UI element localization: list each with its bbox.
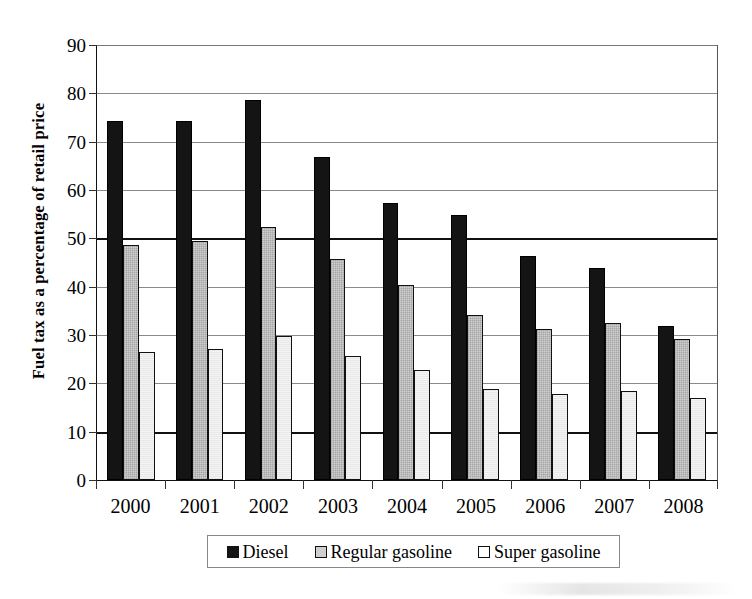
x-tickmark-2008 — [649, 480, 718, 490]
bar-slot — [107, 45, 155, 480]
legend-label: Super gasoline — [494, 543, 600, 561]
bar-group-2004 — [373, 45, 442, 480]
x-tick-label-2000: 2000 — [96, 492, 165, 520]
x-tickmark-2006 — [511, 480, 580, 490]
bar-regular-gasoline-2007 — [605, 323, 621, 480]
legend-swatch-icon-regular — [315, 546, 327, 558]
bar-diesel-2005 — [451, 215, 467, 480]
x-tickmark-2004 — [372, 480, 441, 490]
bar-slot — [314, 45, 362, 480]
bar-diesel-2002 — [245, 100, 261, 480]
x-tick-label-2002: 2002 — [234, 492, 303, 520]
bar-group-2001 — [166, 45, 235, 480]
bar-slot — [245, 45, 293, 480]
y-tick-label-70: 70 — [40, 132, 97, 151]
bar-super-gasoline-2006 — [552, 394, 568, 480]
bar-regular-gasoline-2002 — [261, 227, 277, 480]
y-tick-label-90: 90 — [40, 36, 97, 55]
bar-diesel-2006 — [520, 256, 536, 480]
x-tick-label-2004: 2004 — [372, 492, 441, 520]
y-tick-label-20: 20 — [40, 374, 97, 393]
bar-diesel-2008 — [658, 326, 674, 480]
bar-super-gasoline-2005 — [483, 389, 499, 480]
x-tickmark-2001 — [165, 480, 234, 490]
legend-item-regular-gasoline[interactable]: Regular gasoline — [315, 543, 452, 561]
x-tickmark-2007 — [580, 480, 649, 490]
y-tick-label-50: 50 — [40, 229, 97, 248]
x-tickmark-2002 — [234, 480, 303, 490]
bar-group-2000 — [97, 45, 166, 480]
bar-regular-gasoline-2008 — [674, 339, 690, 480]
bar-regular-gasoline-2003 — [330, 259, 346, 480]
bar-group-2005 — [441, 45, 510, 480]
bar-slot — [589, 45, 637, 480]
legend-label: Regular gasoline — [331, 543, 452, 561]
y-tick-label-60: 60 — [40, 180, 97, 199]
x-tick-label-2007: 2007 — [580, 492, 649, 520]
x-tick-label-2003: 2003 — [303, 492, 372, 520]
bar-regular-gasoline-2006 — [536, 329, 552, 480]
bar-regular-gasoline-2000 — [123, 245, 139, 480]
bar-diesel-2000 — [107, 121, 123, 480]
y-tick-label-40: 40 — [40, 277, 97, 296]
bar-slot — [383, 45, 431, 480]
bar-super-gasoline-2008 — [690, 398, 706, 480]
x-tickmark-2000 — [96, 480, 165, 490]
legend-item-diesel[interactable]: Diesel — [227, 543, 289, 561]
bar-super-gasoline-2002 — [276, 336, 292, 480]
x-tick-label-2001: 2001 — [165, 492, 234, 520]
legend-swatch-icon-super — [478, 546, 490, 558]
x-tickmark-2005 — [442, 480, 511, 490]
y-tick-label-30: 30 — [40, 325, 97, 344]
bar-slot — [520, 45, 568, 480]
scan-artifact — [498, 583, 738, 595]
bar-diesel-2003 — [314, 157, 330, 480]
bar-regular-gasoline-2001 — [192, 241, 208, 480]
legend-item-super-gasoline[interactable]: Super gasoline — [478, 543, 600, 561]
bar-diesel-2007 — [589, 268, 605, 480]
bar-super-gasoline-2003 — [345, 356, 361, 480]
bar-super-gasoline-2004 — [414, 370, 430, 480]
plot-area: 0102030405060708090 — [96, 45, 718, 480]
bar-group-2003 — [304, 45, 373, 480]
bar-group-2002 — [235, 45, 304, 480]
x-axis-labels: 200020012002200320042005200620072008 — [96, 492, 718, 520]
bar-group-2007 — [579, 45, 648, 480]
legend-swatch-icon-diesel — [227, 546, 239, 558]
x-tick-label-2006: 2006 — [511, 492, 580, 520]
bar-group-2008 — [648, 45, 717, 480]
legend-label: Diesel — [243, 543, 289, 561]
bar-regular-gasoline-2005 — [467, 315, 483, 480]
bar-slot — [451, 45, 499, 480]
chart-legend: DieselRegular gasolineSuper gasoline — [207, 535, 620, 568]
bar-regular-gasoline-2004 — [398, 285, 414, 480]
y-tick-label-80: 80 — [40, 84, 97, 103]
bar-chart-figure: Fuel tax as a percentage of retail price… — [0, 0, 752, 599]
bar-slot — [658, 45, 706, 480]
bar-diesel-2004 — [383, 203, 399, 480]
bar-groups — [97, 45, 717, 480]
x-axis-tickmarks — [96, 480, 718, 490]
x-tick-label-2005: 2005 — [442, 492, 511, 520]
x-tickmark-2003 — [303, 480, 372, 490]
x-tick-label-2008: 2008 — [649, 492, 718, 520]
bar-super-gasoline-2007 — [621, 391, 637, 480]
y-tick-label-0: 0 — [40, 471, 97, 490]
bar-slot — [176, 45, 224, 480]
bar-group-2006 — [510, 45, 579, 480]
bar-super-gasoline-2001 — [208, 349, 224, 480]
bar-diesel-2001 — [176, 121, 192, 480]
bar-super-gasoline-2000 — [139, 352, 155, 480]
y-tick-label-10: 10 — [40, 422, 97, 441]
